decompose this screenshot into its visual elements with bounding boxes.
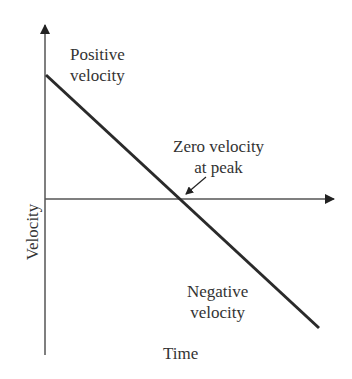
zero-line1: Zero velocity (173, 136, 264, 157)
negative-line1: Negative (187, 281, 248, 302)
velocity-line (46, 75, 319, 328)
positive-line2: velocity (70, 65, 125, 86)
zero-pointer-arrow (186, 177, 206, 194)
zero-velocity-label: Zero velocity at peak (173, 136, 264, 178)
y-axis-label: Velocity (23, 202, 43, 262)
positive-velocity-label: Positive velocity (70, 44, 125, 86)
zero-line2: at peak (173, 157, 264, 178)
x-axis-label: Time (163, 343, 198, 364)
negative-line2: velocity (187, 302, 248, 323)
negative-velocity-label: Negative velocity (187, 281, 248, 323)
velocity-graph (0, 0, 352, 379)
positive-line1: Positive (70, 44, 125, 65)
